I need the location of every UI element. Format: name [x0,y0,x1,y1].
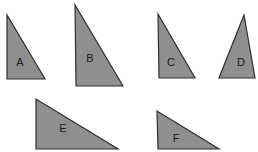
triangle-e: E [36,99,118,149]
triangle-d-label: D [237,56,245,68]
triangles-diagram: A B C D E F [0,0,258,152]
triangle-f-shape [157,111,219,149]
triangle-c-shape [158,14,195,78]
triangle-c-label: C [167,56,175,68]
triangle-a-shape [7,15,45,79]
triangle-d: D [219,15,255,78]
triangle-b: B [75,5,123,86]
triangle-c: C [158,14,195,78]
triangle-a: A [7,15,45,79]
triangle-b-label: B [86,52,93,64]
triangle-d-shape [219,15,255,78]
triangle-f-label: F [173,132,180,144]
triangle-f: F [157,111,219,149]
triangle-e-label: E [59,122,66,134]
triangle-e-shape [36,99,118,149]
triangle-a-label: A [16,56,24,68]
triangle-b-shape [75,5,123,86]
